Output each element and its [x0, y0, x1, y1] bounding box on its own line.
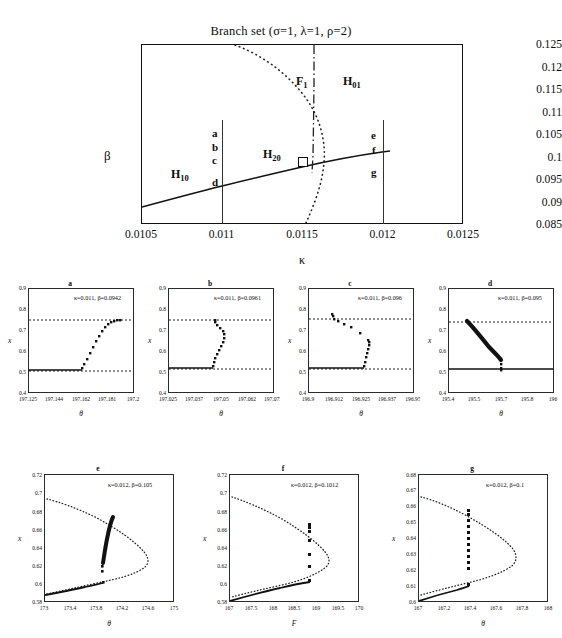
subplot-b-y-tick-2: 0.6 [146, 348, 166, 354]
subplot-e-x-axis-label: θ [44, 619, 174, 628]
main-x-tick-2: 0.0115 [286, 228, 317, 241]
subplot-g-y-tick-4: 0.64 [394, 535, 416, 541]
subplot-c-param-label: κ=0.011, β=0.096 [358, 294, 402, 301]
subplot-e-canvas [45, 475, 173, 601]
subplot-b: b κ=0.011, β=0.0961 x θ 0.4 0.5 [140, 278, 280, 423]
main-y-tick-6: 0.115 [464, 83, 562, 96]
main-branch-set-panel: Branch set (σ=1, λ=1, ρ=2) β κ 0.085 0.0… [0, 0, 562, 270]
data-points-arc [467, 321, 501, 360]
main-y-axis-label: β [104, 148, 111, 164]
subplot-e-param-label: κ=0.012, β=0.105 [108, 481, 152, 488]
subplot-c-y-axis-label: x [288, 336, 291, 345]
subplot-f-y-axis-label: x [203, 534, 206, 543]
subplot-e-y-tick-2: 0.62 [20, 563, 42, 569]
subplot-d-y-axis-label: x [428, 336, 431, 345]
data-points [212, 319, 225, 367]
subplot-f-y-tick-3: 0.64 [205, 545, 227, 551]
subplot-d: d κ=0.011, β=0.095 x θ 0.4 0.5 0.6 0.7 0… [420, 278, 562, 423]
subplot-c-y-tick-2: 0.6 [286, 348, 306, 354]
data-points [467, 509, 470, 586]
subplot-f-y-tick-7: 0.72 [205, 472, 227, 478]
subplot-f-canvas [230, 475, 358, 601]
main-y-tick-2: 0.095 [464, 173, 562, 186]
subplot-a-y-tick-4: 0.8 [6, 306, 26, 312]
subplot-a-y-tick-5: 0.9 [6, 285, 26, 291]
point-label-a: a [212, 127, 218, 139]
subplot-d-y-tick-3: 0.7 [426, 327, 446, 333]
subplot-g-y-tick-8: 0.68 [394, 472, 416, 478]
subplot-f-x-tick-5: 169.5 [332, 605, 345, 611]
subplot-a: a κ=0.011, β=0.0942 x θ 0.4 0.5 [0, 278, 140, 423]
subplot-d-x-tick-3: 195.8 [521, 396, 534, 402]
main-x-tick-3: 0.012 [369, 228, 395, 241]
subplot-b-y-tick-4: 0.8 [146, 306, 166, 312]
h20-label: H20 [263, 147, 281, 163]
subplot-b-y-tick-3: 0.7 [146, 327, 166, 333]
main-y-tick-7: 0.12 [464, 60, 562, 73]
main-y-tick-1: 0.09 [464, 195, 562, 208]
subplot-e-y-tick-6: 0.7 [20, 490, 42, 496]
subplot-g-y-tick-0: 0.6 [394, 599, 416, 605]
subplot-a-y-tick-1: 0.5 [6, 369, 26, 375]
subplot-a-frame [28, 288, 134, 393]
subplot-f-y-tick-0: 0.58 [205, 599, 227, 605]
main-y-tick-5: 0.11 [464, 105, 562, 118]
point-label-b: b [212, 141, 218, 153]
subplot-c-canvas [309, 289, 413, 392]
subplot-f-y-tick-5: 0.68 [205, 509, 227, 515]
subplot-e-y-tick-3: 0.64 [20, 545, 42, 551]
subplot-f-y-tick-4: 0.66 [205, 527, 227, 533]
subplot-g-x-tick-5: 168 [544, 605, 552, 611]
point-label-e: e [371, 129, 376, 141]
subplot-e-y-tick-4: 0.66 [20, 527, 42, 533]
main-x-tick-0: 0.0105 [125, 228, 157, 241]
main-y-tick-4: 0.105 [464, 128, 562, 141]
subplot-d-param-label: κ=0.011, β=0.095 [498, 294, 542, 301]
subplot-d-x-tick-2: 195.7 [495, 396, 508, 402]
main-x-tick-1: 0.011 [209, 228, 235, 241]
subplot-a-x-tick-3: 197.181 [98, 396, 116, 402]
subplot-g-x-tick-0: 167 [414, 605, 422, 611]
subplot-g: g κ=0.012, β=0.1 x θ 0.6 0.61 0.62 0.63 … [382, 462, 562, 637]
subplot-d-x-tick-0: 195.4 [442, 396, 455, 402]
main-y-tick-3: 0.1 [464, 150, 562, 163]
subplot-e-x-tick-2: 173.8 [90, 605, 103, 611]
subplot-d-x-tick-4: 196 [549, 396, 557, 402]
subplot-b-x-axis-label: θ [168, 409, 274, 418]
subplot-a-y-tick-3: 0.7 [6, 327, 26, 333]
h10-label: H10 [171, 167, 189, 183]
subplot-g-y-tick-5: 0.65 [394, 519, 416, 525]
subplot-e: e κ=0.012, β=0.105 x θ 0.58 0.6 0.62 0.6… [8, 462, 188, 637]
subplot-a-y-tick-2: 0.6 [6, 348, 26, 354]
subplot-d-y-tick-5: 0.9 [426, 285, 446, 291]
data-points [81, 319, 121, 369]
point-label-f: f [372, 144, 376, 156]
subplot-g-param-label: κ=0.012, β=0.1 [486, 481, 524, 488]
subplot-a-x-tick-2: 197.162 [72, 396, 90, 402]
subplot-f-y-tick-2: 0.62 [205, 563, 227, 569]
subplot-c-x-axis-label: θ [308, 409, 414, 418]
subplot-f-x-tick-1: 167.5 [245, 605, 258, 611]
subplot-g-canvas [419, 475, 547, 601]
subplot-f: f κ=0.012, β=0.1012 x F 0.58 0.6 0.62 0.… [193, 462, 378, 637]
subplot-c-y-tick-4: 0.8 [286, 306, 306, 312]
subplot-a-x-tick-0: 197.125 [19, 396, 37, 402]
subplot-g-y-tick-1: 0.61 [394, 583, 416, 589]
subplot-e-x-tick-3: 174.2 [116, 605, 129, 611]
subplot-f-y-tick-1: 0.6 [205, 581, 227, 587]
subplot-b-y-tick-5: 0.9 [146, 285, 166, 291]
subplot-f-x-axis-label: F [229, 619, 359, 628]
subplot-f-frame [229, 474, 359, 602]
subplot-g-y-tick-6: 0.66 [394, 503, 416, 509]
subplot-e-y-axis-label: x [18, 534, 21, 543]
subplot-c-y-tick-5: 0.9 [286, 285, 306, 291]
h20-marker [298, 157, 308, 167]
subplot-f-param-label: κ=0.012, β=0.1012 [291, 481, 338, 488]
main-plot-frame [141, 44, 463, 224]
subplot-c-x-tick-1: 196.912 [325, 396, 343, 402]
data-points [101, 565, 105, 584]
subplot-b-y-axis-label: x [148, 336, 151, 345]
subplot-g-y-tick-2: 0.62 [394, 567, 416, 573]
subplot-d-x-axis-label: θ [448, 409, 554, 418]
subplot-g-x-axis-label: θ [418, 619, 548, 628]
